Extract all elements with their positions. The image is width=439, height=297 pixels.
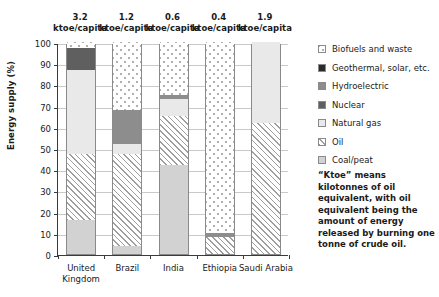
bar-segment-hydro [160, 95, 188, 99]
bar-segment-gas [67, 70, 95, 155]
bar-column-india[interactable] [159, 44, 189, 255]
bar-segment-coal [113, 246, 141, 254]
x-axis-tick [150, 255, 151, 259]
y-axis-tick-label: 10 [40, 230, 51, 240]
legend-label: Biofuels and waste [332, 44, 412, 54]
bar-series-group [58, 44, 288, 255]
stacked-bar[interactable] [66, 44, 96, 255]
x-axis-tick [58, 255, 59, 259]
bar-segment-coal [67, 220, 95, 254]
plot-area: 0102030405060708090100 United KingdomBra… [57, 44, 288, 256]
bar-segment-gas [113, 144, 141, 155]
legend-item-nuclear[interactable]: Nuclear [318, 100, 436, 110]
bar-segment-coal [160, 165, 188, 254]
stacked-bar[interactable] [205, 44, 235, 255]
bar-segment-oil [160, 116, 188, 165]
y-axis-tick-label: 80 [40, 81, 51, 91]
legend-swatch-hydro-icon [318, 82, 326, 90]
legend-swatch-gas-icon [318, 119, 326, 127]
stacked-bar[interactable] [251, 44, 281, 255]
bar-segment-hydro [113, 110, 141, 144]
stacked-bar[interactable] [112, 44, 142, 255]
ktoe-per-capita-unit: ktoe/capita [233, 23, 297, 34]
y-axis-tick-label: 90 [40, 60, 51, 70]
y-axis-tick-label: 100 [35, 39, 51, 49]
bar-segment-bio [113, 42, 141, 110]
bar-segment-oil [113, 154, 141, 245]
legend-label: Oil [332, 137, 343, 147]
legend-swatch-nuclear-icon [318, 101, 326, 109]
bar-segment-nuclear [67, 48, 95, 69]
x-axis-tick [197, 255, 198, 259]
bar-segment-gas [252, 42, 280, 123]
legend-swatch-coal-icon [318, 156, 326, 164]
x-axis-label-saudi-arabia: Saudi Arabia [234, 263, 298, 274]
bar-segment-hydro [206, 233, 234, 237]
legend-item-hydro[interactable]: Hydroelectric [318, 81, 436, 91]
legend-item-oil[interactable]: Oil [318, 137, 436, 147]
bar-segment-oil [67, 154, 95, 220]
legend-swatch-geo-icon [318, 64, 326, 72]
bar-segment-gas [160, 99, 188, 116]
legend-label: Natural gas [332, 118, 381, 128]
legend-item-coal[interactable]: Coal/peat [318, 155, 436, 165]
y-axis-title: Energy supply (%) [6, 61, 16, 150]
legend-item-gas[interactable]: Natural gas [318, 118, 436, 128]
stacked-bar[interactable] [159, 44, 189, 255]
legend-label: Geothermal, solar, etc. [332, 63, 430, 73]
y-axis-tick-label: 30 [40, 187, 51, 197]
bar-column-saudi-arabia[interactable] [251, 44, 281, 255]
y-axis-tick-label: 70 [40, 103, 51, 113]
bar-column-brazil[interactable] [112, 44, 142, 255]
legend-swatch-bio-icon [318, 45, 326, 53]
bar-segment-bio [160, 42, 188, 95]
x-axis-tick [289, 255, 290, 259]
y-axis-tick-label: 20 [40, 209, 51, 219]
x-axis-tick [243, 255, 244, 259]
ktoe-definition-note: “Ktoe” means kilotonnes of oil equivalen… [318, 170, 438, 251]
legend-item-geo[interactable]: Geothermal, solar, etc. [318, 63, 436, 73]
chart-legend: Biofuels and wasteGeothermal, solar, etc… [318, 44, 436, 174]
energy-supply-stacked-bar-chart: Energy supply (%) 0102030405060708090100… [0, 0, 439, 297]
bar-column-united-kingdom[interactable] [66, 44, 96, 255]
legend-label: Nuclear [332, 100, 365, 110]
bar-segment-oil [252, 123, 280, 254]
y-axis-tick-label: 40 [40, 166, 51, 176]
bar-segment-bio [206, 42, 234, 233]
y-axis-tick-label: 50 [40, 145, 51, 155]
column-header-saudi-arabia: 1.9ktoe/capita [233, 12, 297, 33]
bar-segment-bio [67, 42, 95, 48]
legend-item-bio[interactable]: Biofuels and waste [318, 44, 436, 54]
ktoe-per-capita-value: 1.9 [233, 12, 297, 23]
y-axis-tick-label: 0 [46, 251, 51, 261]
legend-swatch-oil-icon [318, 138, 326, 146]
legend-label: Coal/peat [332, 155, 373, 165]
legend-label: Hydroelectric [332, 81, 389, 91]
x-axis-tick [104, 255, 105, 259]
y-axis-tick-label: 60 [40, 124, 51, 134]
bar-segment-oil [206, 237, 234, 254]
bar-column-ethiopia[interactable] [205, 44, 235, 255]
